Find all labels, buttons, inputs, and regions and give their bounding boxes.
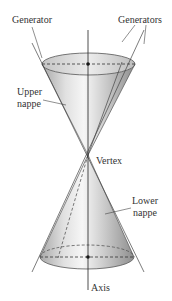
upper-nappe-label-1: Upper — [17, 86, 43, 97]
generator-label: Generator — [12, 14, 53, 25]
generators-leader-2 — [144, 25, 146, 44]
generators-label: Generators — [118, 14, 162, 25]
double-cone-diagram: Generator Generators Upper nappe Vertex … — [0, 0, 172, 301]
lower-nappe-label-1: Lower — [132, 195, 159, 206]
upper-nappe-surface — [42, 64, 135, 155]
lower-nappe-label-2: nappe — [133, 207, 157, 218]
upper-nappe-label-2: nappe — [17, 98, 41, 109]
vertex-label: Vertex — [96, 155, 122, 166]
generators-leader-1 — [122, 25, 135, 42]
lower-nappe-surface — [40, 155, 134, 269]
axis-label: Axis — [91, 282, 110, 293]
